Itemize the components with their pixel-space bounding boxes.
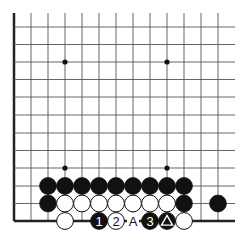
white-stone bbox=[159, 195, 176, 212]
black-stone bbox=[125, 178, 142, 195]
black-stone bbox=[176, 195, 193, 212]
star-point bbox=[164, 165, 169, 170]
move-number-2: 2 bbox=[112, 214, 119, 229]
black-stone bbox=[74, 178, 91, 195]
black-stone bbox=[57, 178, 74, 195]
white-stone bbox=[108, 195, 125, 212]
black-stone bbox=[108, 178, 125, 195]
star-point bbox=[62, 59, 67, 64]
white-stone bbox=[125, 195, 142, 212]
star-point bbox=[62, 165, 67, 170]
black-stone bbox=[176, 178, 193, 195]
go-board: 123A bbox=[0, 0, 251, 247]
black-stone bbox=[40, 178, 57, 195]
black-stone bbox=[91, 178, 108, 195]
move-number-1: 1 bbox=[95, 214, 102, 229]
black-stone bbox=[210, 195, 227, 212]
white-stone bbox=[57, 195, 74, 212]
black-stone bbox=[159, 178, 176, 195]
white-stone bbox=[91, 195, 108, 212]
black-stone bbox=[40, 195, 57, 212]
white-stone bbox=[142, 195, 159, 212]
black-stone bbox=[142, 178, 159, 195]
point-label-A: A bbox=[129, 214, 138, 229]
move-number-3: 3 bbox=[146, 214, 153, 229]
white-stone bbox=[74, 195, 91, 212]
white-stone bbox=[57, 213, 74, 230]
white-stone bbox=[176, 213, 193, 230]
star-point bbox=[164, 59, 169, 64]
